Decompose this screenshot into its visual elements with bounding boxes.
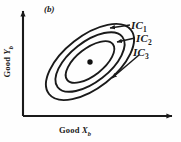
- bliss-point-marker: [87, 59, 92, 64]
- ic1-label-text: IC: [131, 19, 143, 31]
- indifference-curve-figure: (b) IC1 IC2 IC3 Good Xb Good Yb: [0, 0, 181, 142]
- ic2-label: IC2: [136, 33, 152, 47]
- y-axis-label-subscript: b: [7, 46, 14, 49]
- ic3-label-subscript: 3: [145, 52, 149, 61]
- figure-canvas: [0, 0, 181, 142]
- x-axis-label-subscript: b: [88, 130, 91, 137]
- x-axis-label-prefix: Good: [59, 125, 82, 135]
- ic3-label: IC3: [133, 47, 149, 61]
- panel-label: (b): [44, 5, 55, 14]
- ic2-label-subscript: 2: [148, 38, 152, 47]
- ic2-label-text: IC: [136, 32, 148, 44]
- leader-line-ic2: [117, 38, 135, 42]
- y-axis-label-prefix: Good: [2, 55, 12, 78]
- y-axis-label-symbol: Y: [2, 49, 12, 54]
- x-axis-label: Good Xb: [59, 126, 91, 137]
- y-axis-label: Good Yb: [3, 36, 14, 88]
- ic3-label-text: IC: [133, 46, 145, 58]
